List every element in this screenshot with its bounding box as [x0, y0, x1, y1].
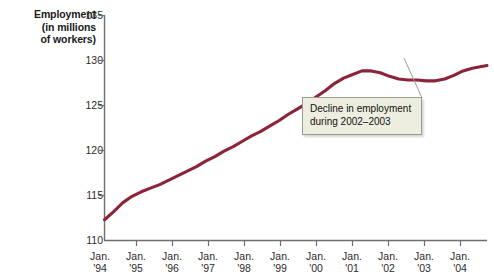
chart-figure: Employment (in millions of workers) 135 …	[0, 0, 494, 276]
callout-line-1: Decline in employment	[310, 103, 414, 116]
callout-leader-line	[404, 58, 422, 98]
employment-line-series	[105, 66, 488, 220]
callout-line-2: during 2002–2003	[310, 116, 414, 129]
plot-area	[0, 0, 494, 276]
axes	[99, 15, 487, 246]
annotation-callout: Decline in employment during 2002–2003	[302, 97, 422, 135]
